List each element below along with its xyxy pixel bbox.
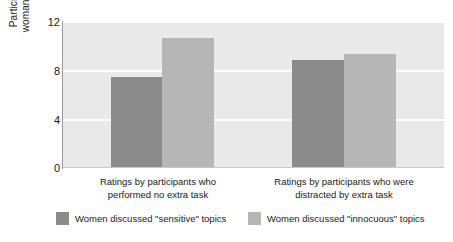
category-label-1-line-2: performed no extra task [83,189,233,202]
y-tick-8: 8 [38,66,60,77]
y-axis-title-line-2: woman's level of anxiety [20,0,32,32]
y-tick-0: 0 [38,163,60,174]
y-axis-title: Participants' ratings of woman's level o… [2,0,38,52]
bar-group2-innocuous [344,54,396,168]
category-label-2-line-2: distracted by extra task [264,189,424,202]
category-label-1-line-1: Ratings by participants who [83,176,233,189]
category-label-1: Ratings by participants who performed no… [83,176,233,202]
bar-group1-innocuous [162,38,214,168]
plot-area [63,21,444,168]
y-axis-tick-labels: 12 8 4 0 [36,0,60,242]
x-axis-line [63,167,444,168]
y-axis-title-line-1: Participants' ratings of [8,0,20,27]
bar-group1-sensitive [111,77,162,168]
legend-swatch-sensitive-icon [56,212,69,225]
bar-chart: Participants' ratings of woman's level o… [0,0,453,242]
legend-item-sensitive: Women discussed "sensitive" topics [56,212,226,225]
legend-label-sensitive: Women discussed "sensitive" topics [75,213,226,224]
y-tick-4: 4 [38,115,60,126]
category-label-2: Ratings by participants who were distrac… [264,176,424,202]
legend: Women discussed "sensitive" topics Women… [0,212,453,234]
gridline-12 [63,21,444,23]
legend-swatch-innocuous-icon [248,212,261,225]
legend-item-innocuous: Women discussed "innocuous" topics [248,212,425,225]
category-label-2-line-1: Ratings by participants who were [264,176,424,189]
legend-label-innocuous: Women discussed "innocuous" topics [267,213,425,224]
bar-group2-sensitive [292,60,344,168]
y-tick-12: 12 [38,17,60,28]
